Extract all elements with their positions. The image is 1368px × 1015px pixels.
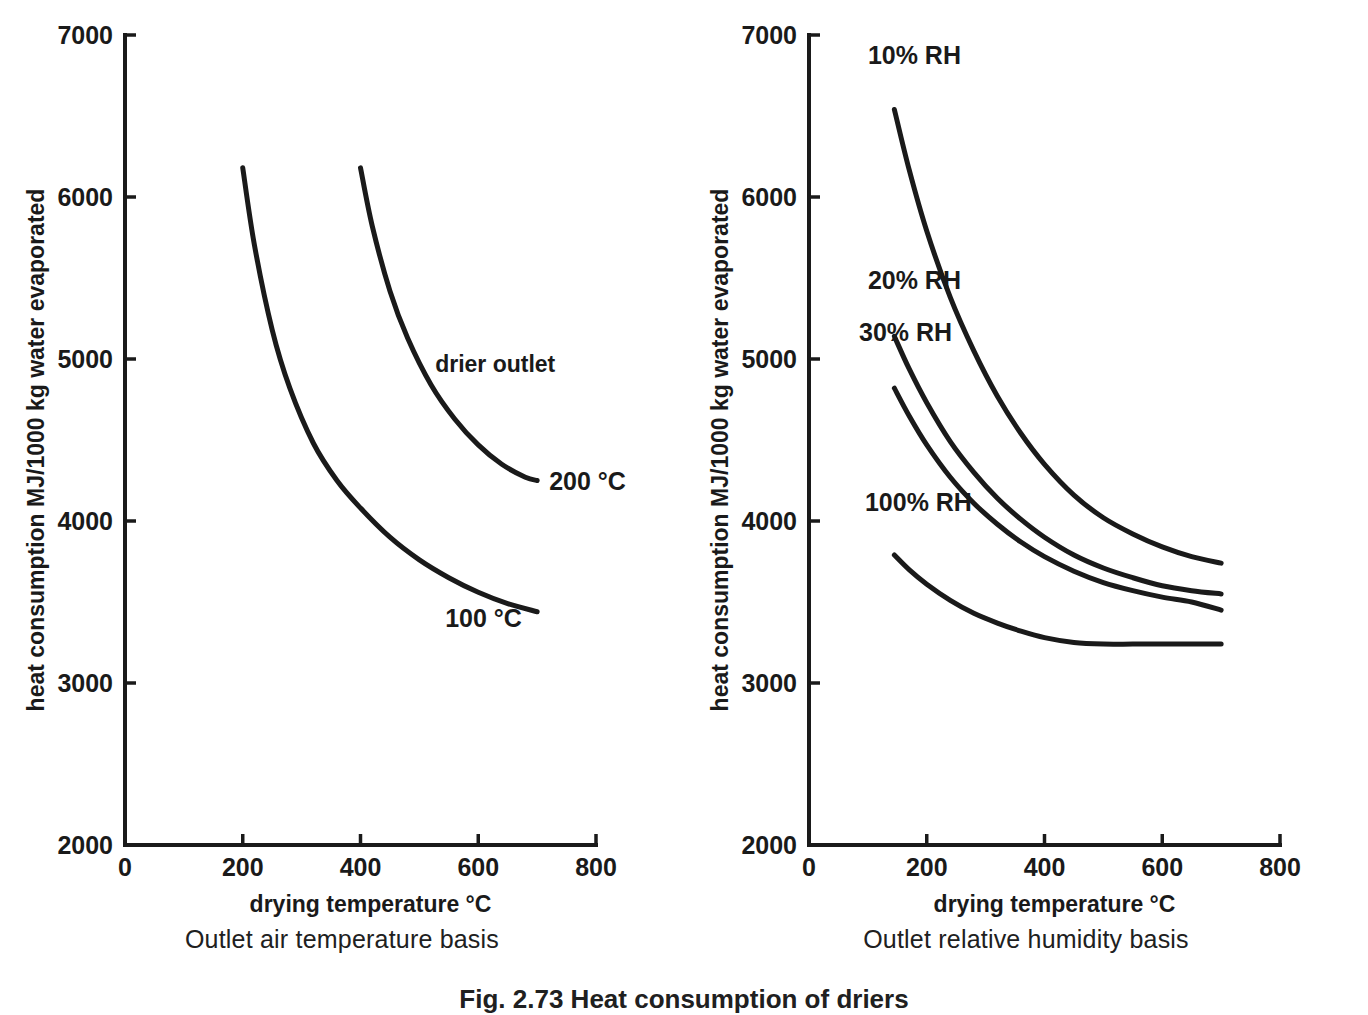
curve-label-200c: 200 °C [549,467,626,495]
figure-caption: Fig. 2.73 Heat consumption of driers [0,984,1368,1015]
x-axis-title: drying temperature °C [934,891,1176,917]
y-tick-label: 3000 [741,669,797,697]
y-tick-label: 5000 [741,345,797,373]
x-tick-label: 400 [1024,853,1066,881]
y-tick-label: 5000 [57,345,113,373]
y-axis-title: heat consumption MJ/1000 kg water evapor… [23,189,49,712]
panel-subtitle-left: Outlet air temperature basis [0,925,684,954]
x-tick-label: 200 [222,853,264,881]
data-curve-200-c [361,168,538,481]
y-tick-label: 2000 [57,831,113,859]
annotation-drier-outlet: drier outlet [435,351,555,377]
x-tick-label: 200 [906,853,948,881]
x-tick-label: 600 [457,853,499,881]
curve-label-20-rh: 20% RH [868,266,961,294]
x-axis-title: drying temperature °C [250,891,492,917]
chart-panel-outlet-relative-humidity: 2000300040005000600070000200400600800dry… [684,0,1368,1010]
curve-label-30-rh: 30% RH [859,318,952,346]
plot-area-left: 2000300040005000600070000200400600800dry… [0,0,684,1010]
curve-label-100c: 100 °C [445,604,522,632]
y-tick-label: 6000 [57,183,113,211]
axis-lines [125,35,596,845]
panel-subtitle-right: Outlet relative humidity basis [684,925,1368,954]
y-tick-label: 3000 [57,669,113,697]
y-tick-label: 6000 [741,183,797,211]
chart-panel-outlet-air-temperature: 2000300040005000600070000200400600800dry… [0,0,684,1010]
curve-label-100-rh: 100% RH [865,488,972,516]
x-tick-label: 0 [118,853,132,881]
x-tick-label: 800 [1259,853,1301,881]
curve-label-10-rh: 10% RH [868,41,961,69]
x-tick-label: 0 [802,853,816,881]
y-tick-label: 4000 [741,507,797,535]
x-tick-label: 400 [340,853,382,881]
x-tick-label: 600 [1141,853,1183,881]
y-tick-label: 7000 [57,21,113,49]
axis-lines [809,35,1280,845]
y-tick-label: 2000 [741,831,797,859]
data-curve-100-c [243,168,537,612]
y-tick-label: 4000 [57,507,113,535]
plot-area-right: 2000300040005000600070000200400600800dry… [684,0,1368,1010]
y-axis-title: heat consumption MJ/1000 kg water evapor… [707,189,733,712]
y-tick-label: 7000 [741,21,797,49]
x-tick-label: 800 [575,853,617,881]
